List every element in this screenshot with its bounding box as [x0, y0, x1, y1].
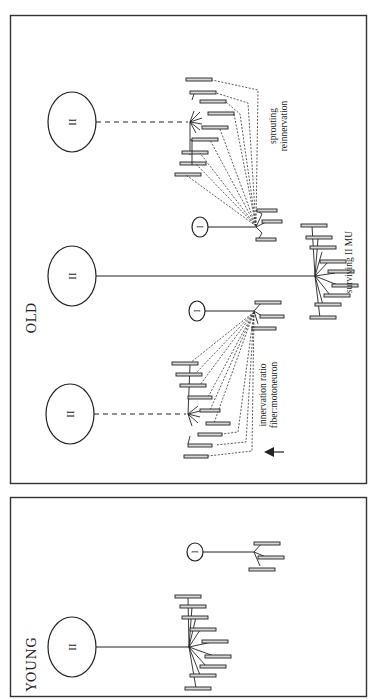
- muscle-fiber: [200, 409, 220, 412]
- muscle-fiber: [186, 78, 212, 81]
- muscle-fiber: [176, 373, 202, 376]
- muscle-fiber: [198, 433, 222, 436]
- muscle-fiber: [175, 595, 201, 598]
- muscle-fiber: [256, 238, 276, 241]
- soma-label: II: [66, 118, 78, 126]
- muscle-fiber: [254, 542, 280, 545]
- muscle-fiber: [257, 209, 277, 212]
- muscle-fiber: [180, 162, 206, 165]
- panel-old: OLD II: [11, 16, 367, 484]
- soma-label: II: [64, 410, 76, 418]
- muscle-fiber: [200, 665, 226, 668]
- panel-young-label: YOUNG: [24, 637, 39, 692]
- muscle-fiber: [208, 112, 234, 115]
- young-motor-unit-i: I: [187, 542, 284, 571]
- muscle-fiber: [205, 655, 231, 658]
- muscle-fiber: [180, 605, 206, 608]
- muscle-fibers: [172, 362, 230, 458]
- soma-label: II: [66, 643, 78, 651]
- soma-label: I: [191, 550, 200, 553]
- muscle-fiber: [202, 126, 228, 129]
- muscle-fiber: [306, 236, 332, 239]
- old-motor-unit-i-sprouting-top: I: [186, 80, 282, 241]
- muscle-fiber: [310, 316, 336, 319]
- muscle-fiber: [190, 674, 216, 677]
- muscle-fiber: [180, 384, 206, 387]
- soma-label: I: [193, 309, 202, 312]
- muscle-fiber: [190, 628, 216, 631]
- annotation-innervation-ratio: innervation ratio: [258, 363, 268, 426]
- annotation-sprouting: sprouting: [268, 108, 278, 144]
- muscle-fiber: [258, 556, 284, 559]
- muscle-fiber: [255, 301, 281, 304]
- muscle-fiber: [185, 687, 211, 690]
- annotation-reinnervation: reinnervation: [279, 100, 289, 151]
- muscle-fibers: [175, 78, 234, 176]
- muscle-fiber: [172, 362, 198, 365]
- muscle-fiber: [301, 224, 327, 227]
- muscle-fiber: [262, 220, 282, 223]
- panel-old-label: OLD: [24, 302, 39, 333]
- annotation-fiber-motoneuron: fiber:motoneuron: [269, 362, 279, 429]
- muscle-fiber: [192, 138, 218, 141]
- muscle-fibers: [175, 595, 231, 690]
- muscle-fiber: [184, 455, 208, 458]
- old-motor-unit-ii-denervated-bottom: II: [46, 362, 230, 458]
- young-motor-unit-ii: II: [48, 595, 231, 690]
- soma-label: II: [66, 272, 78, 280]
- soma-label: I: [196, 225, 205, 228]
- muscle-fiber: [188, 444, 212, 447]
- up-arrow-icon: [264, 447, 284, 457]
- muscle-fiber: [175, 173, 201, 176]
- muscle-fiber: [188, 396, 212, 399]
- muscle-fiber: [249, 568, 275, 571]
- muscle-fiber: [202, 640, 228, 643]
- motor-unit-diagram: OLD II: [0, 0, 378, 700]
- muscle-fiber: [310, 246, 336, 249]
- muscle-fiber: [252, 327, 276, 330]
- panel-young: YOUNG I II: [11, 498, 367, 697]
- muscle-fiber: [324, 294, 350, 297]
- annotation-surviving-ii-mu: surviving II MU: [344, 231, 354, 293]
- muscle-fiber: [260, 315, 284, 318]
- muscle-fiber: [206, 422, 230, 425]
- muscle-fiber: [182, 616, 208, 619]
- muscle-fiber: [315, 303, 341, 306]
- muscle-fiber: [182, 151, 208, 154]
- muscle-fiber: [320, 260, 346, 263]
- muscle-fiber: [200, 100, 226, 103]
- muscle-fiber: [190, 91, 216, 94]
